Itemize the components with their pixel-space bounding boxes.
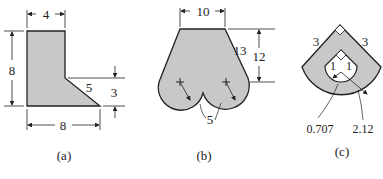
figure-canvas: 4 8 8 5 3 (a) 10 13 12 [0, 0, 383, 179]
dim-c-left-side: 3 [313, 34, 320, 49]
dim-a-top-width: 4 [43, 7, 50, 22]
shape-b [158, 29, 249, 110]
dim-a-bottom-width: 8 [60, 118, 67, 133]
panel-b: 10 13 12 5 (b) [158, 4, 275, 163]
dim-a-left-height: 8 [9, 63, 16, 78]
dim-b-radius: 5 [207, 112, 214, 127]
dim-b-slant: 13 [234, 43, 247, 58]
panel-a: 4 8 8 5 3 (a) [4, 7, 125, 163]
dim-b-height: 12 [253, 49, 266, 64]
panel-c-label: (c) [335, 144, 349, 159]
panel-c: 3 3 1 1 0.707 2.12 (c) [302, 25, 381, 159]
dim-a-right-height: 3 [111, 85, 118, 100]
panel-b-label: (b) [196, 148, 211, 163]
dim-c-inner-right: 1 [346, 59, 352, 73]
dim-c-inner-left: 1 [330, 59, 336, 73]
panel-a-label: (a) [57, 148, 71, 163]
dim-c-inner-radius: 0.707 [307, 122, 334, 136]
dim-c-right-side: 3 [362, 34, 369, 49]
dim-a-slant: 5 [86, 80, 93, 95]
dim-b-top-width: 10 [197, 4, 210, 19]
dim-c-outer-radius: 2.12 [353, 122, 374, 136]
